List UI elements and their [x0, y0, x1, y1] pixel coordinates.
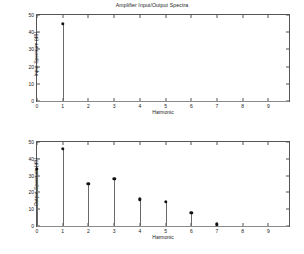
output-stem-line [166, 202, 167, 226]
input-xtick-label: 9 [267, 103, 270, 109]
output-spectrum-axes: Output Spectrum (dB) Harmonic 0 10 20 30… [36, 141, 290, 227]
input-xtick-label: 0 [36, 103, 39, 109]
input-spectrum-axes: Input Spectrum (dB) Harmonic 0 10 20 30 … [36, 14, 290, 102]
output-ytick-label: 50 [28, 139, 34, 145]
output-xtick-label: 1 [61, 228, 64, 234]
input-ytick-label: 20 [28, 64, 34, 70]
output-stem-line [191, 213, 192, 226]
output-x-axis-label: Harmonic [37, 234, 289, 240]
input-plot-area: Input Spectrum (dB) Harmonic 0 10 20 30 … [37, 15, 289, 101]
output-data-point [112, 177, 115, 180]
input-baseline [37, 101, 289, 102]
output-xtick-label: 3 [113, 228, 116, 234]
input-xtick-label: 3 [113, 103, 116, 109]
figure-canvas: Amplifier Input/Output Spectra Input Spe… [0, 0, 304, 254]
output-ytick-label: 30 [28, 173, 34, 179]
output-data-point [164, 200, 167, 203]
output-stem-line [140, 199, 141, 226]
output-xtick-label: 6 [190, 228, 193, 234]
input-xtick-label: 6 [190, 103, 193, 109]
input-xtick-label: 7 [216, 103, 219, 109]
output-ytick-label: 40 [28, 156, 34, 162]
input-data-point [61, 22, 64, 25]
output-stem-line [114, 179, 115, 226]
output-stem-line [37, 169, 38, 226]
input-xtick-label: 2 [87, 103, 90, 109]
output-data-point [61, 147, 64, 150]
output-xtick-label: 8 [241, 228, 244, 234]
output-ytick-label: 10 [28, 206, 34, 212]
input-x-axis-label: Harmonic [37, 109, 289, 115]
output-xtick-label: 7 [216, 228, 219, 234]
output-data-point [190, 211, 193, 214]
input-xtick-label: 5 [164, 103, 167, 109]
input-xtick-label: 1 [61, 103, 64, 109]
output-xtick-label: 4 [138, 228, 141, 234]
output-stem-line [63, 149, 64, 226]
input-ytick-label: 50 [28, 12, 34, 18]
input-ytick-label: 0 [31, 98, 34, 104]
output-data-point [87, 182, 90, 185]
output-ytick-label: 0 [31, 223, 34, 229]
output-xtick-label: 5 [164, 228, 167, 234]
input-stem-line [63, 24, 64, 101]
output-xtick-label: 2 [87, 228, 90, 234]
output-xtick-label: 0 [36, 228, 39, 234]
output-data-point [138, 197, 141, 200]
chart-title: Amplifier Input/Output Spectra [0, 2, 304, 8]
input-ytick-label: 10 [28, 81, 34, 87]
input-xtick-label: 4 [138, 103, 141, 109]
output-stem-line [88, 184, 89, 226]
input-xtick-label: 8 [241, 103, 244, 109]
output-baseline [37, 226, 289, 227]
output-xtick-label: 9 [267, 228, 270, 234]
input-ytick-label: 30 [28, 46, 34, 52]
input-ytick-label: 40 [28, 29, 34, 35]
output-plot-area: Output Spectrum (dB) Harmonic 0 10 20 30… [37, 142, 289, 226]
output-ytick-label: 20 [28, 189, 34, 195]
